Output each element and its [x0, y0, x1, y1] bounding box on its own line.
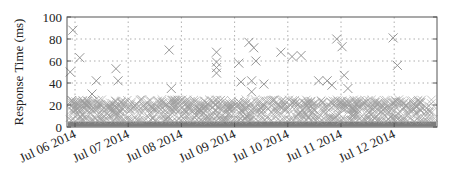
- x-marker: [212, 69, 221, 78]
- x-marker: [165, 46, 174, 55]
- x-marker: [68, 26, 77, 35]
- x-marker: [249, 43, 258, 52]
- x-marker: [340, 71, 349, 80]
- x-marker: [327, 81, 336, 90]
- x-marker: [427, 96, 435, 104]
- x-marker: [343, 84, 352, 93]
- x-marker: [236, 77, 245, 86]
- y-tick-label: 20: [49, 98, 62, 113]
- x-marker: [244, 38, 253, 47]
- x-marker: [247, 87, 256, 96]
- x-tick-label: Jul 11 2014: [283, 126, 344, 165]
- x-tick-label: Jul 06 2014: [17, 126, 79, 165]
- y-tick-label: 40: [49, 76, 62, 91]
- x-marker: [167, 84, 176, 93]
- y-axis-label: Response Time (ms): [11, 19, 26, 126]
- x-marker: [389, 33, 398, 42]
- y-tick-label: 60: [49, 54, 62, 69]
- y-tick-label: 100: [43, 10, 63, 25]
- y-tick-label: 80: [49, 32, 62, 47]
- x-marker: [212, 58, 221, 67]
- x-marker: [92, 76, 101, 85]
- x-marker: [234, 59, 243, 68]
- x-tick-label: Jul 10 2014: [230, 126, 292, 165]
- x-marker: [427, 99, 435, 107]
- x-tick-label: Jul 09 2014: [177, 126, 239, 165]
- x-marker: [276, 48, 285, 57]
- x-marker: [314, 76, 323, 85]
- x-tick-label: Jul 08 2014: [123, 126, 185, 165]
- x-axis-ticks: Jul 06 2014Jul 07 2014Jul 08 2014Jul 09 …: [17, 123, 398, 165]
- x-tick-label: Jul 07 2014: [70, 126, 132, 165]
- outlier-markers: [66, 26, 402, 99]
- x-marker: [111, 64, 120, 73]
- dense-markers: [66, 95, 438, 126]
- x-marker: [288, 52, 297, 61]
- x-marker: [75, 53, 84, 62]
- x-marker: [114, 76, 123, 85]
- x-marker: [297, 51, 306, 60]
- x-marker: [212, 63, 221, 72]
- x-marker: [212, 48, 221, 57]
- x-marker: [247, 76, 256, 85]
- response-time-chart: 020406080100 Jul 06 2014Jul 07 2014Jul 0…: [0, 0, 456, 182]
- x-marker: [259, 80, 268, 89]
- x-marker: [393, 61, 402, 70]
- x-tick-label: Jul 12 2014: [336, 126, 398, 165]
- x-marker: [338, 42, 347, 51]
